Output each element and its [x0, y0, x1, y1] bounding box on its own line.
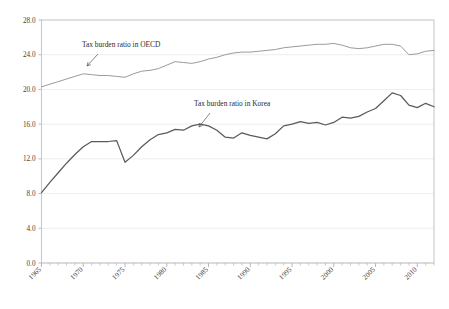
y-tick-label: 8.0 [27, 190, 36, 198]
annotation-label: Tax burden ratio in OECD [82, 40, 161, 49]
y-tick-label: 28.0 [23, 17, 36, 25]
y-tick-label: 16.0 [23, 121, 36, 129]
y-tick-label: 24.0 [23, 51, 36, 59]
y-tick-label: 12.0 [23, 155, 36, 163]
y-tick-label: 0.0 [27, 260, 36, 268]
y-tick-label: 4.0 [27, 225, 36, 233]
annotation-label: Tax burden ratio in Korea [194, 99, 271, 108]
line-chart: 0.04.08.012.016.020.024.028.0 1965197019… [0, 0, 449, 309]
y-tick-label: 20.0 [23, 86, 36, 94]
chart-container: 0.04.08.012.016.020.024.028.0 1965197019… [0, 0, 449, 309]
